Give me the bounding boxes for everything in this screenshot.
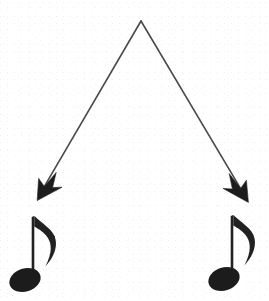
branching-arrow-diagram <box>0 0 269 301</box>
figure-container: Branching arrow diagram pointing to two … <box>0 0 269 301</box>
figure-background <box>0 0 269 301</box>
